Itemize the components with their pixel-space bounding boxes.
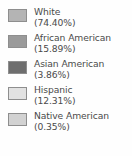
legend-item-labels: White (74.40%) xyxy=(34,7,132,28)
legend-item-native-american: Native American (0.35%) xyxy=(0,111,132,137)
legend-item-name: African American xyxy=(34,33,132,44)
legend-swatch-icon xyxy=(8,61,27,74)
legend-item-percent: (0.35%) xyxy=(34,122,132,133)
legend-swatch-icon xyxy=(8,113,27,126)
legend-item-labels: Asian American (3.86%) xyxy=(34,59,132,80)
legend-item-asian-american: Asian American (3.86%) xyxy=(0,59,132,85)
legend-item-name: Native American xyxy=(34,111,132,122)
legend-item-percent: (3.86%) xyxy=(34,70,132,81)
legend-item-hispanic: Hispanic (12.31%) xyxy=(0,85,132,111)
legend-item-name: White xyxy=(34,7,132,18)
legend-swatch-icon xyxy=(8,87,27,100)
legend-item-percent: (12.31%) xyxy=(34,96,132,107)
legend-item-percent: (74.40%) xyxy=(34,18,132,29)
legend-item-labels: African American (15.89%) xyxy=(34,33,132,54)
legend-item-african-american: African American (15.89%) xyxy=(0,33,132,59)
legend-item-name: Hispanic xyxy=(34,85,132,96)
chart-legend: White (74.40%) African American (15.89%)… xyxy=(0,0,132,156)
legend-item-labels: Hispanic (12.31%) xyxy=(34,85,132,106)
legend-swatch-icon xyxy=(8,35,27,48)
legend-item-labels: Native American (0.35%) xyxy=(34,111,132,132)
legend-item-name: Asian American xyxy=(34,59,132,70)
legend-swatch-icon xyxy=(8,9,27,22)
legend-item-white: White (74.40%) xyxy=(0,7,132,33)
legend-item-percent: (15.89%) xyxy=(34,44,132,55)
